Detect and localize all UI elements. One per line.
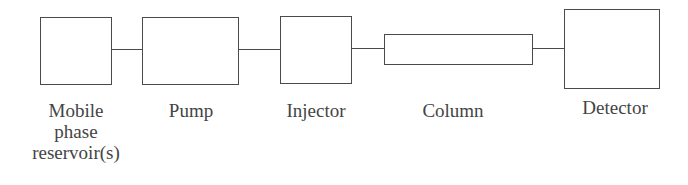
injector-box: [280, 16, 352, 84]
column-label: Column: [403, 100, 503, 121]
column-box: [384, 34, 533, 65]
injector-label: Injector: [266, 100, 366, 121]
detector-box: [564, 9, 660, 89]
detector-label: Detector: [565, 97, 665, 118]
pump-box: [142, 17, 239, 85]
pump-label: Pump: [141, 100, 241, 121]
connector-reservoir-pump: [112, 49, 142, 50]
reservoir-box: [40, 17, 112, 85]
connector-injector-column: [352, 48, 384, 49]
connector-pump-injector: [239, 49, 280, 50]
reservoir-label: Mobile phase reservoir(s): [15, 100, 137, 163]
connector-column-detector: [533, 48, 564, 49]
